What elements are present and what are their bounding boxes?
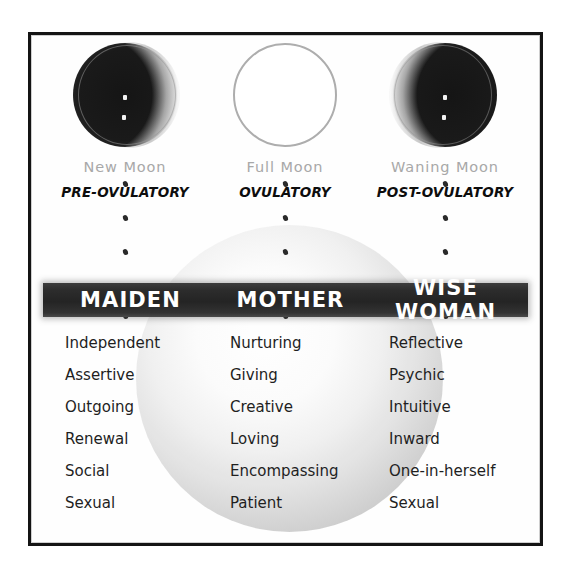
connector-dot bbox=[282, 180, 289, 187]
connector-dot bbox=[282, 248, 289, 255]
new-moon-icon bbox=[73, 43, 177, 147]
moon-speck bbox=[443, 95, 447, 100]
connector-dot bbox=[442, 180, 449, 187]
list-item: Intuitive bbox=[389, 391, 528, 423]
list-item: Inward bbox=[389, 423, 528, 455]
list-item: Psychic bbox=[389, 359, 528, 391]
attribute-lists: Independent Assertive Outgoing Renewal S… bbox=[43, 327, 528, 519]
list-item: Social bbox=[65, 455, 204, 487]
attribute-list-maiden: Independent Assertive Outgoing Renewal S… bbox=[43, 327, 204, 519]
poster-frame: New Moon PRE-OVULATORY Full Moon OVULATO… bbox=[28, 32, 543, 546]
connector-dot bbox=[122, 248, 129, 255]
list-item: Creative bbox=[230, 391, 369, 423]
list-item: Sexual bbox=[65, 487, 204, 519]
full-moon-icon bbox=[233, 43, 337, 147]
list-item: Independent bbox=[65, 327, 204, 359]
list-item: Nurturing bbox=[230, 327, 369, 359]
list-item: Assertive bbox=[65, 359, 204, 391]
list-item: Outgoing bbox=[65, 391, 204, 423]
archetype-title-mother: MOTHER bbox=[218, 288, 363, 312]
archetype-title-maiden: MAIDEN bbox=[43, 288, 218, 312]
list-item: Encompassing bbox=[230, 455, 369, 487]
moon-phase-label-new: New Moon bbox=[45, 159, 205, 175]
list-item: Patient bbox=[230, 487, 369, 519]
archetype-banner: MAIDEN MOTHER WISE WOMAN bbox=[43, 283, 528, 317]
list-item: Sexual bbox=[389, 487, 528, 519]
moon-speck bbox=[442, 115, 446, 120]
moon-phase-label-full: Full Moon bbox=[205, 159, 365, 175]
waning-moon-icon bbox=[393, 43, 497, 147]
moon-column-new: New Moon PRE-OVULATORY bbox=[45, 35, 205, 200]
list-item: Renewal bbox=[65, 423, 204, 455]
list-item: Reflective bbox=[389, 327, 528, 359]
attribute-list-wise-woman: Reflective Psychic Intuitive Inward One-… bbox=[369, 327, 528, 519]
moon-phase-label-waning: Waning Moon bbox=[365, 159, 525, 175]
list-item: One-in-herself bbox=[389, 455, 528, 487]
connector-dot bbox=[122, 214, 129, 221]
connector-dot bbox=[442, 248, 449, 255]
connector-dot bbox=[122, 180, 129, 187]
moon-column-waning: Waning Moon POST-OVULATORY bbox=[365, 35, 525, 200]
poster-canvas: New Moon PRE-OVULATORY Full Moon OVULATO… bbox=[0, 0, 571, 578]
list-item: Loving bbox=[230, 423, 369, 455]
moon-speck bbox=[123, 95, 127, 100]
attribute-list-mother: Nurturing Giving Creative Loving Encompa… bbox=[204, 327, 369, 519]
list-item: Giving bbox=[230, 359, 369, 391]
connector-dot bbox=[442, 214, 449, 221]
moon-column-full: Full Moon OVULATORY bbox=[205, 35, 365, 200]
connector-dot bbox=[282, 214, 289, 221]
archetype-title-wise-woman: WISE WOMAN bbox=[363, 276, 528, 324]
moon-speck bbox=[122, 115, 126, 120]
